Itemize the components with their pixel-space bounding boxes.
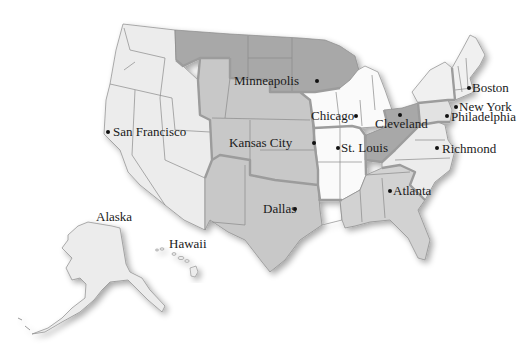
region-label-hawaii: Hawaii — [169, 237, 207, 250]
city-marker-icon — [312, 141, 316, 145]
contiguous-us — [104, 24, 485, 272]
city-marker-icon — [388, 189, 392, 193]
city-label: Chicago — [311, 109, 354, 122]
city-label: Dallas — [263, 202, 296, 215]
district-new-york — [412, 62, 455, 103]
city-label: Kansas City — [229, 136, 292, 149]
city-marker-icon — [336, 146, 340, 150]
city-label: Richmond — [442, 142, 496, 155]
city-label: Cleveland — [375, 117, 428, 130]
aleutian-islands — [18, 318, 30, 330]
city-label: Atlanta — [393, 184, 431, 197]
city-marker-icon — [354, 114, 358, 118]
city-label: Minneapolis — [234, 74, 299, 87]
city-marker-icon — [106, 130, 110, 134]
city-marker-icon — [435, 146, 439, 150]
city-marker-icon — [315, 79, 319, 83]
city-label: Philadelphia — [451, 110, 516, 123]
city-marker-icon — [445, 114, 449, 118]
city-label: Boston — [472, 81, 509, 94]
city-marker-icon — [467, 86, 471, 90]
city-label: San Francisco — [113, 125, 186, 138]
hawaii-shape — [156, 248, 199, 277]
us-map — [0, 0, 526, 349]
region-label-alaska: Alaska — [96, 210, 132, 223]
city-label: St. Louis — [341, 141, 388, 154]
